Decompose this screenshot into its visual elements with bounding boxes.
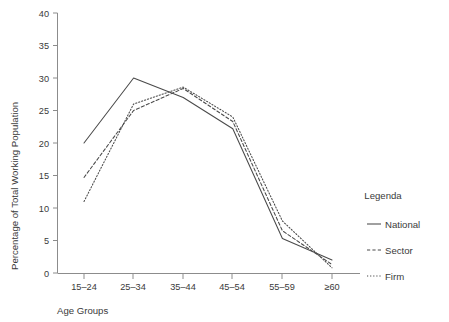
chart-figure: 40 35 30 25 20 15 10 5 0 15–24 25–34 35–… [0,0,449,322]
y-tick-label-20: 20 [39,139,49,149]
y-tick-label-5: 5 [44,236,49,246]
legend-label-firm: Firm [385,271,404,282]
y-axis-ticks [53,13,58,273]
y-axis-tick-labels: 40 35 30 25 20 15 10 5 0 [39,9,49,279]
legend-label-national: National [385,219,420,230]
x-tick-label-45-54: 45–54 [219,282,245,292]
series-line-sector [84,88,332,264]
y-tick-label-10: 10 [39,204,49,214]
y-tick-label-35: 35 [39,41,49,51]
y-tick-label-30: 30 [39,74,49,84]
y-tick-label-40: 40 [39,9,49,19]
y-tick-label-15: 15 [39,171,49,181]
legend-label-sector: Sector [385,245,414,256]
x-axis-tick-labels: 15–24 25–34 35–44 45–54 55–59 ≥60 [71,282,339,292]
y-tick-label-25: 25 [39,106,49,116]
y-axis-title: Percentage of Total Working Population [9,102,20,270]
y-tick-label-0: 0 [44,269,49,279]
legend-item-firm[interactable]: Firm [367,271,404,282]
legend-item-sector[interactable]: Sector [367,245,414,256]
x-tick-label-55-59: 55–59 [269,282,295,292]
x-axis-title: Age Groups [57,305,108,316]
x-tick-label-15-24: 15–24 [71,282,97,292]
x-tick-label-25-34: 25–34 [120,282,146,292]
legend-title: Legenda [364,190,402,201]
chart-legend: Legenda National Sector Firm [364,190,420,282]
series-line-firm [84,87,332,268]
line-chart-canvas: 40 35 30 25 20 15 10 5 0 15–24 25–34 35–… [0,0,449,322]
chart-series-group [84,78,332,268]
x-tick-label-60-plus: ≥60 [324,282,339,292]
x-axis-ticks [84,274,332,280]
chart-axes [58,13,361,274]
legend-item-national[interactable]: National [367,219,420,230]
x-tick-label-35-44: 35–44 [170,282,196,292]
